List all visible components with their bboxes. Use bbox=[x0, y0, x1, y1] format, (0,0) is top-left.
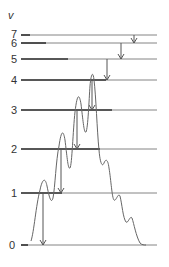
level-label-4: 4 bbox=[11, 74, 17, 86]
level-lines bbox=[21, 35, 157, 245]
level-label-5: 5 bbox=[11, 53, 17, 65]
transition-arrows bbox=[40, 35, 137, 245]
level-label-2: 2 bbox=[11, 143, 17, 155]
arrow-7-to-6 bbox=[131, 35, 137, 43]
axis-label-v: v bbox=[8, 9, 15, 21]
arrow-2-to-1 bbox=[58, 149, 64, 193]
level-label-3: 3 bbox=[11, 104, 17, 116]
vibrational-level-diagram: v 0 1 2 3 4 5 6 7 bbox=[0, 0, 169, 267]
arrow-6-to-5 bbox=[118, 43, 124, 59]
level-label-7: 7 bbox=[11, 28, 17, 40]
level-label-0: 0 bbox=[9, 239, 15, 251]
wavefunction-curve bbox=[31, 74, 146, 245]
arrow-1-to-0 bbox=[40, 193, 46, 245]
arrow-5-to-4 bbox=[104, 59, 110, 80]
level-label-1: 1 bbox=[11, 187, 17, 199]
